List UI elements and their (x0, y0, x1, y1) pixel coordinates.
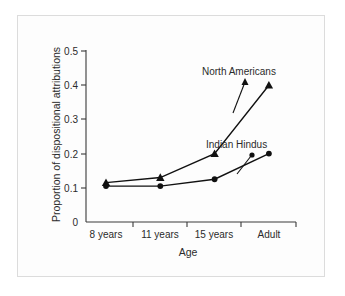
line-chart: 0.5 0.4 0.3 0.2 0.1 0 Proportion of disp… (0, 0, 345, 296)
series-markers-north-americans (102, 81, 273, 186)
y-tick-label-0.3: 0.3 (64, 114, 78, 125)
series-label-indian-hindus: Indian Hindus (206, 139, 267, 150)
data-point-8-years (103, 183, 109, 189)
data-point-adult (265, 81, 273, 89)
series-indian-hindus (103, 151, 272, 189)
y-tick-label-0.4: 0.4 (64, 80, 78, 91)
leader-dot-indian-hindus (249, 152, 254, 157)
x-axis-ticks (133, 222, 296, 227)
series-line-indian-hindus (106, 154, 269, 186)
y-tick-label-0.5: 0.5 (64, 46, 78, 57)
y-axis-title: Proportion of dispositional attributions (50, 47, 62, 222)
series-line-north-americans (106, 85, 269, 182)
figure-container: 0.5 0.4 0.3 0.2 0.1 0 Proportion of disp… (0, 0, 345, 296)
y-axis-ticks (81, 51, 86, 188)
x-tick-label-15-years: 15 years (195, 229, 233, 240)
x-tick-label-8-years: 8 years (90, 229, 123, 240)
leader-arrow-north-americans (242, 78, 249, 85)
data-point-11-years (157, 183, 163, 189)
x-axis-title: Age (179, 246, 198, 258)
leader-line-indian-hindus (237, 156, 251, 174)
data-point-adult (266, 151, 272, 157)
leader-line-north-americans (233, 82, 245, 113)
y-tick-label-0.1: 0.1 (64, 183, 78, 194)
x-tick-label-adult: Adult (258, 229, 281, 240)
series-label-north-americans: North Americans (202, 66, 276, 77)
y-tick-label-0: 0 (72, 217, 78, 228)
y-tick-label-0.2: 0.2 (64, 149, 78, 160)
x-tick-label-11-years: 11 years (141, 229, 179, 240)
series-north-americans (102, 81, 273, 186)
data-point-15-years (212, 176, 218, 182)
